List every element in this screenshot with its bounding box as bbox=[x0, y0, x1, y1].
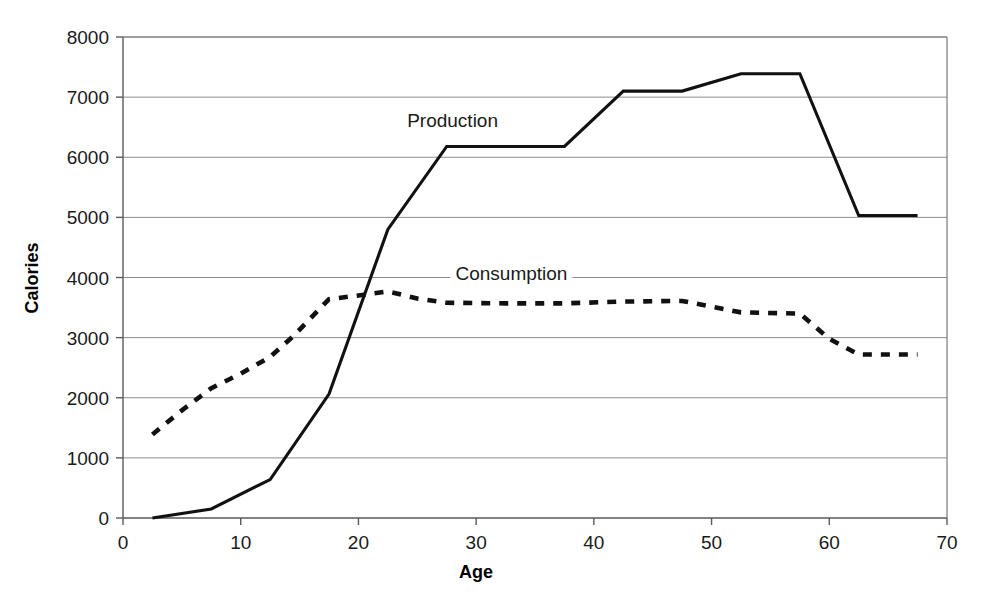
y-tick-label-6000: 6000 bbox=[67, 147, 109, 168]
x-tick-labels-group: 010203040506070 bbox=[118, 532, 958, 553]
series-label-consumption: Consumption bbox=[455, 263, 567, 284]
series-line-production bbox=[152, 74, 917, 518]
x-axis-title: Age bbox=[459, 562, 493, 582]
y-tick-label-3000: 3000 bbox=[67, 328, 109, 349]
y-tick-label-2000: 2000 bbox=[67, 388, 109, 409]
chart-container: 010002000300040005000600070008000 010203… bbox=[0, 0, 992, 600]
gridlines-group bbox=[123, 37, 947, 458]
y-tick-label-0: 0 bbox=[98, 508, 109, 529]
y-tick-label-7000: 7000 bbox=[67, 87, 109, 108]
x-tick-label-70: 70 bbox=[936, 532, 957, 553]
x-tick-label-20: 20 bbox=[348, 532, 369, 553]
series-annotations-group: ProductionConsumption bbox=[397, 109, 573, 286]
y-tick-labels-group: 010002000300040005000600070008000 bbox=[67, 27, 109, 529]
series-label-production: Production bbox=[407, 110, 498, 131]
y-tick-label-4000: 4000 bbox=[67, 268, 109, 289]
x-tick-label-60: 60 bbox=[819, 532, 840, 553]
x-tick-label-10: 10 bbox=[230, 532, 251, 553]
x-tick-label-40: 40 bbox=[583, 532, 604, 553]
x-tick-label-30: 30 bbox=[466, 532, 487, 553]
x-tick-label-0: 0 bbox=[118, 532, 129, 553]
y-tick-label-8000: 8000 bbox=[67, 27, 109, 48]
y-tick-label-1000: 1000 bbox=[67, 448, 109, 469]
y-tick-label-5000: 5000 bbox=[67, 207, 109, 228]
line-chart-svg: 010002000300040005000600070008000 010203… bbox=[0, 0, 992, 600]
y-axis-title: Calories bbox=[22, 242, 42, 313]
series-line-consumption bbox=[152, 291, 917, 434]
series-group bbox=[152, 74, 917, 518]
x-tick-label-50: 50 bbox=[701, 532, 722, 553]
